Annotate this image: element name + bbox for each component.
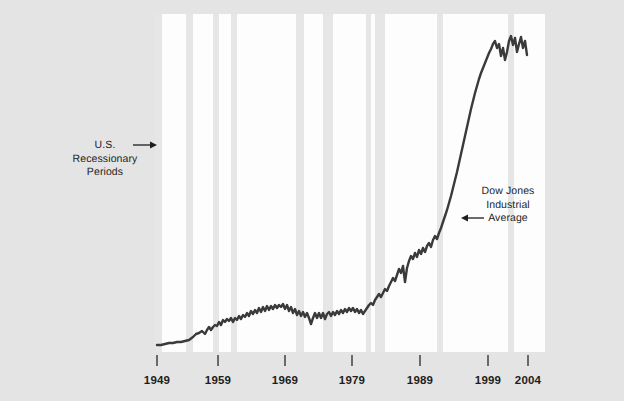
recession-band	[366, 14, 371, 352]
recession-label-line2: Recessionary	[61, 153, 149, 167]
x-axis-label-5: 1999	[475, 374, 501, 386]
recession-periods-label: U.S. Recessionary Periods	[61, 139, 149, 180]
recession-band	[323, 14, 333, 352]
djia-series-label: Dow Jones Industrial Average	[468, 185, 548, 226]
x-axis-ticks	[157, 355, 528, 366]
x-axis-label-3: 1979	[339, 374, 365, 386]
recession-band	[213, 14, 219, 352]
recession-label-line1: U.S.	[61, 139, 149, 153]
recession-band	[231, 14, 237, 352]
djia-label-line3: Average	[468, 212, 548, 226]
djia-label-line1: Dow Jones	[468, 185, 548, 199]
x-axis-label-4: 1989	[407, 374, 433, 386]
djia-label-line2: Industrial	[468, 199, 548, 213]
recession-band	[508, 14, 514, 352]
recession-band	[375, 14, 385, 352]
x-axis-label-0: 1949	[144, 374, 170, 386]
recession-band	[155, 14, 162, 352]
recession-band	[186, 14, 193, 352]
recession-band	[296, 14, 304, 352]
x-axis-label-1: 1959	[205, 374, 231, 386]
x-axis-label-2: 1969	[272, 374, 298, 386]
recession-band	[437, 14, 443, 352]
x-axis-label-6: 2004	[515, 374, 541, 386]
chart-figure: U.S. Recessionary Periods Dow Jones Indu…	[0, 0, 624, 401]
recession-label-line3: Periods	[61, 166, 149, 180]
